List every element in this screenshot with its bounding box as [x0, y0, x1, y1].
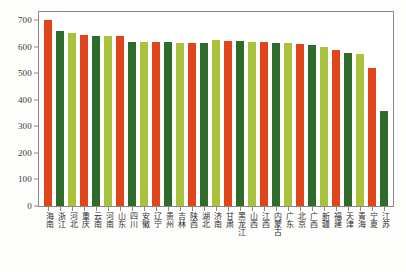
bar: [68, 33, 77, 206]
bar-slot: [102, 12, 114, 206]
x-label-slot: 天津: [342, 212, 354, 260]
bar-slot: [126, 12, 138, 206]
bar: [320, 47, 329, 206]
x-label-slot: 宁夏: [366, 212, 378, 260]
bar: [92, 36, 101, 206]
x-tick-label: 甘肃: [224, 212, 232, 228]
bar-slot: [330, 12, 342, 206]
x-tick-label: 黑龙江: [236, 212, 244, 236]
bar: [176, 43, 185, 206]
x-axis-ticks: [39, 207, 393, 211]
x-tick-slot: [198, 207, 210, 211]
x-label-slot: 广东: [282, 212, 294, 260]
x-tick-label: 青海: [356, 212, 364, 228]
x-tick-slot: [126, 207, 138, 211]
bar-slot: [78, 12, 90, 206]
bar-slot: [174, 12, 186, 206]
figure-caption: [0, 259, 406, 272]
y-axis: 0100200300400500600700: [0, 11, 38, 207]
x-tick-mark: [120, 207, 121, 211]
x-tick-mark: [384, 207, 385, 211]
x-tick-mark: [216, 207, 217, 211]
x-label-slot: 浙江: [54, 212, 66, 260]
x-tick-mark: [192, 207, 193, 211]
x-label-slot: 重庆: [78, 212, 90, 260]
x-tick-slot: [222, 207, 234, 211]
bar-slot: [234, 12, 246, 206]
bar: [380, 111, 389, 206]
chart-figure: 0100200300400500600700 海南浙江河北重庆云南河南山东四川安…: [0, 0, 406, 272]
bar-slot: [54, 12, 66, 206]
x-tick-slot: [138, 207, 150, 211]
x-tick-mark: [48, 207, 49, 211]
bar: [248, 42, 257, 206]
bar-slot: [114, 12, 126, 206]
y-tick-label: 0: [27, 201, 32, 211]
x-tick-label: 江西: [260, 212, 268, 228]
x-tick-slot: [354, 207, 366, 211]
x-tick-slot: [174, 207, 186, 211]
bar: [152, 42, 161, 206]
bar: [224, 41, 233, 206]
bar-slot: [138, 12, 150, 206]
x-tick-slot: [258, 207, 270, 211]
bar-slot: [162, 12, 174, 206]
x-label-slot: 山东: [114, 212, 126, 260]
bar-slot: [246, 12, 258, 206]
x-tick-label: 广东: [284, 212, 292, 228]
bar: [332, 50, 341, 206]
y-tick-label: 200: [18, 148, 32, 158]
x-label-slot: 广西: [306, 212, 318, 260]
x-tick-slot: [114, 207, 126, 211]
x-label-slot: 北京: [294, 212, 306, 260]
x-tick-label: 辽宁: [152, 212, 160, 228]
x-tick-label: 济南: [212, 212, 220, 228]
bar: [308, 45, 317, 206]
x-label-slot: 四川: [126, 212, 138, 260]
x-tick-label: 河北: [68, 212, 76, 228]
x-tick-mark: [156, 207, 157, 211]
x-tick-slot: [330, 207, 342, 211]
x-tick-mark: [252, 207, 253, 211]
x-label-slot: 吉林: [174, 212, 186, 260]
bar: [212, 40, 221, 206]
x-tick-slot: [42, 207, 54, 211]
bar-slot: [366, 12, 378, 206]
x-tick-mark: [240, 207, 241, 211]
x-tick-slot: [366, 207, 378, 211]
bar: [56, 31, 65, 206]
bar-slot: [318, 12, 330, 206]
x-tick-mark: [60, 207, 61, 211]
bar-slot: [258, 12, 270, 206]
x-tick-mark: [372, 207, 373, 211]
x-label-slot: 新疆: [318, 212, 330, 260]
x-tick-mark: [108, 207, 109, 211]
bar-slot: [186, 12, 198, 206]
x-tick-slot: [150, 207, 162, 211]
bar-slot: [306, 12, 318, 206]
bar: [284, 43, 293, 206]
x-tick-label: 云南: [92, 212, 100, 228]
bar: [272, 43, 281, 206]
x-tick-label: 山东: [116, 212, 124, 228]
x-tick-slot: [282, 207, 294, 211]
x-tick-label: 天津: [344, 212, 352, 228]
bar-slot: [198, 12, 210, 206]
bar: [104, 36, 113, 206]
x-tick-slot: [342, 207, 354, 211]
x-label-slot: 安徽: [138, 212, 150, 260]
x-tick-label: 重庆: [80, 212, 88, 228]
x-label-slot: 青海: [354, 212, 366, 260]
x-tick-label: 安徽: [140, 212, 148, 228]
bar-slot: [222, 12, 234, 206]
x-tick-mark: [324, 207, 325, 211]
x-label-slot: 甘肃: [222, 212, 234, 260]
x-tick-label: 四川: [128, 212, 136, 228]
bar-slot: [210, 12, 222, 206]
x-tick-slot: [90, 207, 102, 211]
y-tick-label: 700: [18, 15, 32, 25]
bar: [140, 42, 149, 206]
bar: [188, 43, 197, 206]
bar: [344, 53, 353, 206]
bar-slot: [342, 12, 354, 206]
